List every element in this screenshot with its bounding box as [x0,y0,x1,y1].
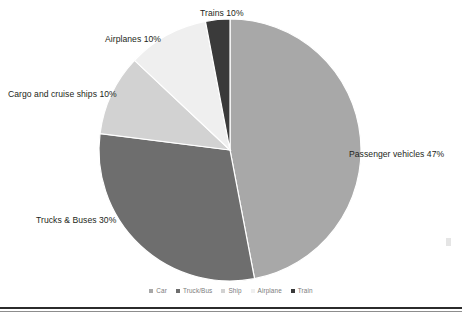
pie-chart-graphic [0,0,462,319]
legend-swatch-icon [221,289,225,293]
legend-label: Airplane [258,287,282,294]
footer-rule-secondary [0,311,462,312]
pie-slice-truck_bus[interactable] [99,134,255,281]
pie-slice-car[interactable] [230,19,361,279]
slice-callout-airplane: Airplanes 10% [105,35,161,44]
pie-chart-figure: Trains 10% Airplanes 10% Cargo and cruis… [0,0,462,319]
slice-callout-ship: Cargo and cruise ships 10% [8,90,117,99]
legend-item-car[interactable]: Car [149,287,167,294]
legend-item-ship[interactable]: Ship [221,287,241,294]
footer-rule [0,307,462,309]
legend-swatch-icon [149,289,153,293]
legend-swatch-icon [251,289,255,293]
legend-label: Ship [228,287,241,294]
legend-item-train[interactable]: Train [291,287,313,294]
legend-swatch-icon [176,289,180,293]
legend-swatch-icon [291,289,295,293]
slice-callout-truck-bus: Trucks & Buses 30% [36,216,116,225]
slice-callout-car: Passenger vehicles 47% [349,150,444,159]
legend-label: Train [298,287,313,294]
page-edge-artifact [446,238,451,246]
slice-callout-train: Trains 10% [200,9,244,18]
legend-label: Truck/Bus [183,287,212,294]
legend-item-airplane[interactable]: Airplane [251,287,282,294]
pie-slice-group [99,19,361,281]
legend-item-truck-bus[interactable]: Truck/Bus [176,287,212,294]
legend-label: Car [156,287,167,294]
chart-legend: CarTruck/BusShipAirplaneTrain [0,287,462,294]
